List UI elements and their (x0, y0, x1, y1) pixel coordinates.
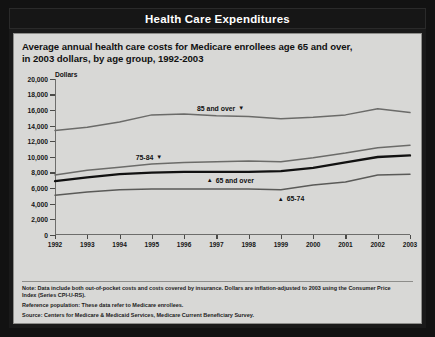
x-axis-tick-label: 2001 (338, 241, 352, 248)
y-axis-tick (50, 110, 56, 111)
series-annotation-label: 65 and over (216, 177, 254, 184)
panel-title-bar: Health Care Expenditures (9, 8, 426, 29)
x-axis-tick-label: 1997 (209, 241, 223, 248)
x-axis-tick (281, 235, 282, 240)
chart-content-area: Average annual health care costs for Med… (13, 33, 422, 324)
x-axis-tick (184, 235, 185, 240)
x-axis-tick-label: 1996 (177, 241, 191, 248)
y-axis-tick (50, 79, 56, 80)
plot-wrapper: Dollars 02,0004,0006,0008,00010,00012,00… (22, 72, 413, 254)
x-axis-tick-label: 1993 (80, 241, 94, 248)
y-axis-tick-label: 8,000 (31, 169, 48, 176)
x-axis-tick-label: 1998 (241, 241, 255, 248)
x-axis-tick-label: 1995 (145, 241, 159, 248)
chart-panel: Health Care Expenditures Average annual … (9, 8, 426, 328)
x-axis-tick (378, 235, 379, 240)
footnote-source: Source: Centers for Medicare & Medicaid … (22, 312, 413, 319)
y-axis-tick-label: 20,000 (28, 75, 48, 82)
y-axis-tick-label: 14,000 (28, 122, 48, 129)
x-axis-tick (410, 235, 411, 240)
up-triangle-icon: ▲ (207, 177, 213, 183)
y-axis-tick-label: 4,000 (31, 200, 48, 207)
chart-subtitle-line-2: in 2003 dollars, by age group, 1992-2003 (22, 53, 413, 65)
x-axis-tick-label: 2000 (306, 241, 320, 248)
y-axis-tick-label: 16,000 (28, 107, 48, 114)
series-annotation-75-84: 75-84▼ (136, 154, 163, 161)
chart-subtitle-line-1: Average annual health care costs for Med… (22, 41, 413, 53)
chart-subtitle: Average annual health care costs for Med… (22, 41, 413, 66)
x-axis-tick (216, 235, 217, 240)
down-triangle-icon: ▼ (238, 105, 244, 111)
x-axis-tick-label: 1994 (112, 241, 126, 248)
y-axis-tick-label: 12,000 (28, 138, 48, 145)
series-line-85-and-over (55, 108, 410, 130)
x-axis-tick-label: 1992 (48, 241, 62, 248)
x-axis-tick-label: 2003 (403, 241, 417, 248)
x-axis-tick-label: 1999 (274, 241, 288, 248)
footnotes: Note: Data include both out-of-pocket co… (22, 281, 413, 319)
x-axis-tick (120, 235, 121, 240)
series-annotation-label: 75-84 (136, 154, 154, 161)
up-triangle-icon: ▲ (278, 196, 284, 202)
page-title: Health Care Expenditures (145, 13, 290, 25)
y-axis-tick-label: 0 (44, 231, 48, 238)
x-axis-tick (152, 235, 153, 240)
x-axis-tick (87, 235, 88, 240)
series-annotation-85-and-over: 85 and over▼ (197, 105, 244, 112)
x-axis-tick (55, 235, 56, 240)
down-triangle-icon: ▼ (156, 154, 162, 160)
series-annotation-label: 85 and over (197, 105, 235, 112)
x-axis-tick (313, 235, 314, 240)
y-axis-tick (50, 126, 56, 127)
footnote-note-line-2: Index (Series CPI-U-RS). (22, 292, 413, 299)
x-axis-tick (249, 235, 250, 240)
y-axis-tick-label: 18,000 (28, 91, 48, 98)
y-axis-tick (50, 157, 56, 158)
y-axis-tick (50, 141, 56, 142)
y-axis-unit-label: Dollars (55, 71, 77, 78)
y-axis-tick (50, 204, 56, 205)
y-axis-tick-label: 2,000 (31, 216, 48, 223)
y-axis-tick-label: 10,000 (28, 153, 48, 160)
y-axis-tick (50, 219, 56, 220)
chart-lines (55, 79, 410, 235)
y-axis-tick (50, 94, 56, 95)
footnote-reference-population: Reference population: These data refer t… (22, 302, 413, 309)
series-annotation-65-and-over: ▲65 and over (207, 177, 254, 184)
footnote-divider (22, 281, 413, 282)
x-axis-tick (345, 235, 346, 240)
chart-figure-frame: Health Care Expenditures Average annual … (0, 0, 435, 337)
series-annotation-65-74: ▲65-74 (278, 195, 305, 202)
y-axis-tick (50, 172, 56, 173)
x-axis-tick-label: 2002 (370, 241, 384, 248)
series-annotation-label: 65-74 (287, 195, 305, 202)
footnote-note-line-1: Note: Data include both out-of-pocket co… (22, 285, 413, 292)
y-axis-tick-label: 6,000 (31, 185, 48, 192)
y-axis-tick (50, 188, 56, 189)
plot-area: 02,0004,0006,0008,00010,00012,00014,0001… (55, 79, 410, 235)
